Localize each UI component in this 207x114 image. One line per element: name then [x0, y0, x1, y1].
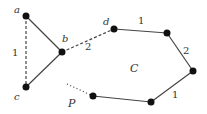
node-c	[23, 84, 30, 91]
node-label-b: b	[62, 33, 68, 44]
node-e	[164, 30, 171, 37]
edge-weight-label: 1	[12, 47, 18, 58]
node-d	[111, 26, 118, 33]
region-label-P: P	[67, 97, 76, 110]
edge-weight-label: 1	[138, 15, 144, 26]
graph-svg: 12121abcdCP	[0, 0, 207, 114]
edge-d-e	[114, 29, 167, 33]
graph-diagram: 12121abcdCP	[0, 0, 207, 114]
edges-layer	[26, 16, 193, 102]
node-label-a: a	[14, 4, 20, 15]
region-label-C: C	[130, 62, 139, 75]
path-dotted-start	[67, 84, 93, 96]
node-f	[190, 68, 197, 75]
edge-b-c	[26, 52, 62, 87]
node-b	[59, 49, 66, 56]
node-label-d: d	[103, 16, 109, 27]
labels-layer: 12121abcdCP	[12, 4, 189, 110]
edge-a-b	[26, 16, 62, 52]
node-a	[23, 13, 30, 20]
edge-g-h	[93, 96, 151, 102]
edge-weight-label: 1	[172, 89, 178, 100]
edge-weight-label: 2	[183, 45, 189, 56]
node-g	[148, 99, 155, 106]
node-label-c: c	[14, 91, 20, 102]
node-h	[90, 93, 97, 100]
edge-weight-label: 2	[85, 41, 91, 52]
nodes-layer	[23, 13, 197, 106]
